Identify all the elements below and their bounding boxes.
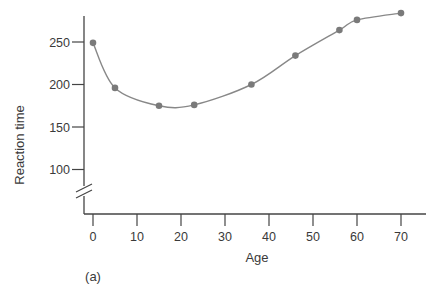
- x-tick-label: 0: [90, 230, 97, 244]
- y-axis-label: Reaction time: [12, 105, 27, 184]
- axes: [76, 16, 426, 214]
- data-point: [90, 40, 97, 47]
- data-point: [191, 102, 198, 109]
- x-tick-label: 20: [174, 230, 188, 244]
- data-points: [90, 10, 405, 109]
- x-tick-label: 70: [394, 230, 408, 244]
- y-tick-label: 100: [49, 163, 70, 177]
- data-point: [336, 27, 343, 34]
- y-tick-label: 200: [49, 78, 70, 92]
- x-tick-label: 10: [130, 230, 144, 244]
- x-tick-label: 30: [218, 230, 232, 244]
- x-axis-ticks: 010203040506070: [90, 214, 408, 244]
- data-point: [156, 102, 163, 109]
- x-tick-label: 50: [306, 230, 320, 244]
- x-tick-label: 40: [262, 230, 276, 244]
- y-tick-label: 250: [49, 36, 70, 50]
- y-axis-ticks: 100150200250: [49, 36, 84, 178]
- y-tick-label: 150: [49, 121, 70, 135]
- reaction-time-chart: 010203040506070 100150200250 Age Reactio…: [0, 0, 439, 294]
- data-point: [112, 85, 119, 92]
- reaction-time-curve: [93, 13, 401, 108]
- data-point: [248, 81, 255, 88]
- x-axis-label: Age: [245, 250, 268, 265]
- data-point: [292, 52, 299, 59]
- x-tick-label: 60: [350, 230, 364, 244]
- data-point: [354, 17, 361, 24]
- data-point: [398, 10, 405, 17]
- panel-label: (a): [85, 269, 101, 284]
- data-curve: [93, 13, 401, 108]
